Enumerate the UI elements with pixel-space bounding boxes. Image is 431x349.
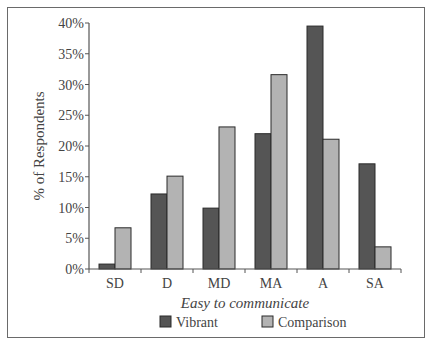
x-category-label: SD xyxy=(106,276,124,291)
legend-label-comparison: Comparison xyxy=(278,315,346,330)
x-category-label: D xyxy=(162,276,172,291)
bar-comparison-a xyxy=(323,139,339,269)
x-axis-labels: SDDMDMAASA xyxy=(106,276,385,291)
y-tick-label: 20% xyxy=(58,139,84,154)
bar-vibrant-ma xyxy=(255,134,271,269)
x-category-label: MA xyxy=(260,276,283,291)
x-category-label: MD xyxy=(208,276,231,291)
axes xyxy=(89,23,401,273)
y-tick-label: 40% xyxy=(58,16,84,31)
bar-vibrant-md xyxy=(203,208,219,269)
x-category-label: A xyxy=(318,276,329,291)
bar-vibrant-sd xyxy=(99,264,115,269)
y-tick-label: 35% xyxy=(58,47,84,62)
bar-vibrant-sa xyxy=(359,164,375,269)
bar-comparison-md xyxy=(219,127,235,269)
legend-label-vibrant: Vibrant xyxy=(176,315,218,330)
bar-comparison-sd xyxy=(115,228,131,269)
y-tick-label: 5% xyxy=(65,231,84,246)
bars xyxy=(99,26,391,269)
y-axis-ticks: 0%5%10%15%20%25%30%35%40% xyxy=(58,16,89,277)
y-axis-title: % of Respondents xyxy=(31,91,47,200)
bar-comparison-ma xyxy=(271,75,287,269)
y-tick-label: 10% xyxy=(58,201,84,216)
y-tick-label: 25% xyxy=(58,108,84,123)
bar-chart: 0%5%10%15%20%25%30%35%40% SDDMDMAASA % o… xyxy=(0,0,431,349)
bar-comparison-sa xyxy=(375,247,391,269)
y-tick-label: 0% xyxy=(65,262,84,277)
y-tick-label: 30% xyxy=(58,78,84,93)
y-tick-label: 15% xyxy=(58,170,84,185)
legend-swatch-vibrant xyxy=(160,316,171,327)
bar-vibrant-d xyxy=(151,194,167,269)
bar-comparison-d xyxy=(167,176,183,269)
x-axis-title: Easy to communicate xyxy=(180,295,310,311)
legend: VibrantComparison xyxy=(160,315,346,330)
x-category-label: SA xyxy=(366,276,385,291)
legend-swatch-comparison xyxy=(262,316,273,327)
bar-vibrant-a xyxy=(307,26,323,269)
